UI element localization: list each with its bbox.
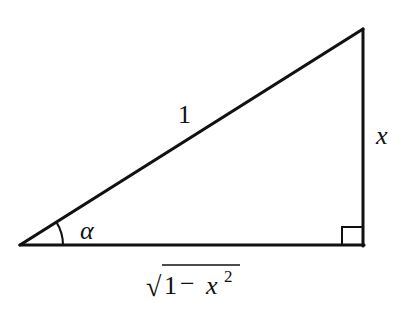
radicand-one: 1 [164, 271, 177, 300]
right-angle-marker [342, 227, 363, 245]
radicand-exponent: 2 [224, 267, 233, 286]
radicand-minus: − [180, 269, 195, 298]
hypotenuse-label: 1 [178, 100, 191, 129]
hypotenuse-line [20, 29, 363, 245]
radical-sign: √ [146, 271, 162, 302]
opposite-side-label: x [375, 121, 388, 150]
angle-arc [56, 222, 63, 245]
adjacent-side-label: √ 1 − x 2 [146, 265, 240, 302]
radicand-x: x [205, 271, 218, 300]
right-triangle-diagram: 1 x α √ 1 − x 2 [0, 0, 404, 310]
angle-alpha-label: α [80, 216, 95, 245]
